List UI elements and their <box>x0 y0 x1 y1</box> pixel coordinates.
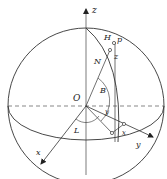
angle-l-label: L <box>73 126 79 135</box>
point-p-label: p <box>117 35 122 44</box>
y-axis-label: y <box>135 140 141 149</box>
x-axis <box>41 106 86 164</box>
y-axis-point-marker <box>122 122 125 125</box>
segment-x-label: x <box>122 129 126 137</box>
sphere-diagram: z x y O H p z N B L y x <box>0 0 167 179</box>
point-h-label: H <box>103 33 112 42</box>
x-axis-label: x <box>36 148 41 157</box>
origin-label: O <box>73 93 81 103</box>
point-z-label: z <box>113 52 119 61</box>
meridian-arc <box>86 28 119 142</box>
z-axis-label: z <box>91 5 97 15</box>
line-n-label: N <box>93 57 102 66</box>
foot-point-marker <box>110 131 113 134</box>
point-p-marker <box>112 41 115 44</box>
angle-b-label: B <box>99 86 106 95</box>
angle-l-arc <box>76 116 99 123</box>
angle-y-label: y <box>104 108 110 116</box>
y-axis <box>86 106 153 137</box>
point-n-marker <box>108 48 111 51</box>
